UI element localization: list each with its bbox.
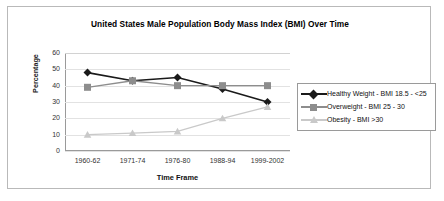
plot-area: 6050403020100 1960-621971-741976-801988-…: [65, 53, 290, 151]
y-tick-label: 20: [38, 114, 60, 121]
y-tick-label: 60: [38, 49, 60, 56]
data-point-marker: [174, 82, 181, 89]
legend-label: Overweight - BMI 25 - 30: [327, 103, 405, 110]
data-series: [65, 53, 290, 151]
legend-item[interactable]: Healthy Weight - BMI 18.5 - <25: [301, 87, 433, 100]
legend-square-icon: [301, 101, 327, 112]
data-point-marker: [129, 77, 136, 84]
legend-item[interactable]: Overweight - BMI 25 - 30: [301, 100, 433, 113]
data-point-marker: [174, 74, 182, 82]
data-point-marker: [264, 103, 272, 110]
legend-label: Obesity - BMI >30: [327, 116, 383, 123]
legend-triangle-icon: [301, 114, 327, 125]
gridline: [65, 151, 290, 152]
y-tick-label: 50: [38, 65, 60, 72]
legend-label: Healthy Weight - BMI 18.5 - <25: [327, 90, 427, 97]
y-tick-label: 10: [38, 131, 60, 138]
chart-figure: United States Male Population Body Mass …: [7, 6, 431, 189]
x-axis-label: Time Frame: [65, 173, 290, 182]
data-point-marker: [264, 82, 271, 89]
y-tick-label: 40: [38, 82, 60, 89]
legend-diamond-icon: [301, 88, 327, 99]
y-tick-label: 0: [38, 147, 60, 154]
x-tick-label: 1999-2002: [233, 157, 303, 164]
data-point-marker: [84, 84, 91, 91]
chart-legend: Healthy Weight - BMI 18.5 - <25Overweigh…: [297, 83, 436, 131]
data-point-marker: [219, 82, 226, 89]
chart-title: United States Male Population Body Mass …: [8, 19, 432, 29]
data-point-marker: [84, 69, 92, 77]
legend-item[interactable]: Obesity - BMI >30: [301, 113, 433, 126]
y-tick-label: 30: [38, 98, 60, 105]
